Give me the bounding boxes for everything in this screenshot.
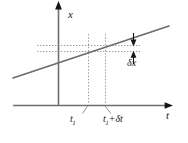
tick-label-t1: t1 (70, 114, 76, 127)
tick-label-t1dt-delta-t: δt (115, 113, 122, 124)
tick-label-t1-plus-delta-t: t1+δt (103, 114, 123, 127)
delta-x-label: δx (127, 58, 136, 68)
x-axis-label: x (68, 9, 73, 20)
diagram-svg (0, 0, 188, 143)
figure-canvas: x t δx t1 t1+δt (0, 0, 188, 143)
tick-label-t1-subscript: 1 (72, 119, 76, 127)
background-plate (0, 0, 188, 143)
t-axis-label: t (166, 110, 169, 121)
